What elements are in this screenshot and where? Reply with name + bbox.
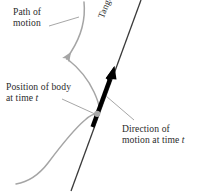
label-direction-of-motion-line2: motion at time t bbox=[122, 134, 185, 145]
physics-diagram-figure: Path of motion Position of body at time … bbox=[0, 0, 203, 196]
leader-line-path-of-motion bbox=[49, 17, 79, 26]
label-position-of-body-line2: at time t bbox=[6, 92, 71, 103]
leader-line-direction-of-motion bbox=[106, 96, 134, 120]
path-of-motion-curve-lower bbox=[16, 60, 100, 185]
label-position-of-body: Position of body at time t bbox=[6, 81, 71, 104]
label-position-of-body-line2-prefix: at time bbox=[6, 92, 36, 103]
path-of-motion-curve bbox=[67, 2, 85, 59]
label-direction-of-motion-line1: Direction of bbox=[122, 123, 185, 134]
label-position-of-body-line1: Position of body bbox=[6, 81, 71, 92]
label-direction-of-motion: Direction of motion at time t bbox=[122, 123, 185, 146]
label-position-of-body-time-variable: t bbox=[36, 92, 39, 103]
label-direction-of-motion-time-variable: t bbox=[182, 134, 185, 145]
label-path-of-motion: Path of motion bbox=[13, 6, 41, 29]
label-path-of-motion-line1: Path of bbox=[13, 6, 41, 17]
label-direction-of-motion-line2-prefix: motion at time bbox=[122, 134, 182, 145]
label-path-of-motion-line2: motion bbox=[13, 17, 41, 28]
body-position-dot bbox=[94, 111, 100, 117]
